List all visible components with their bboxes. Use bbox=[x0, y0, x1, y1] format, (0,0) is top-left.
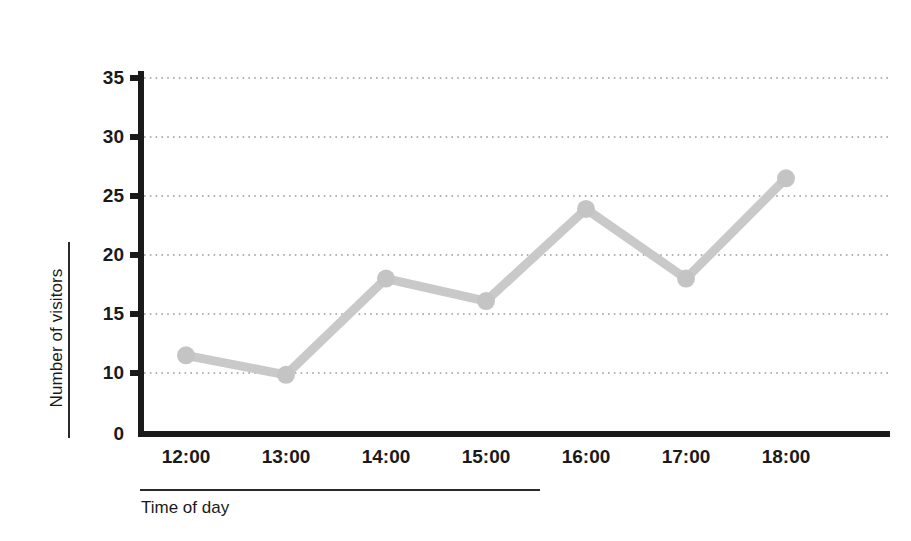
data-point-marker bbox=[377, 270, 395, 288]
y-axis-tick-label: 10 bbox=[78, 363, 124, 382]
data-point-marker bbox=[677, 270, 695, 288]
x-axis-title-rule bbox=[140, 489, 540, 491]
data-series-line bbox=[186, 178, 786, 375]
y-axis-title-text: Number of visitors bbox=[47, 238, 67, 438]
y-axis-tick-label: 15 bbox=[78, 304, 124, 323]
series-polyline bbox=[186, 178, 786, 375]
data-point-marker bbox=[577, 200, 595, 218]
data-point-marker bbox=[477, 292, 495, 310]
y-axis-tick-label: 20 bbox=[78, 245, 124, 264]
x-axis-tick-label: 15:00 bbox=[441, 447, 531, 466]
y-axis-tick-label: 30 bbox=[78, 127, 124, 146]
x-axis-tick-label: 17:00 bbox=[641, 447, 731, 466]
line-chart: 0101520253035 12:0013:0014:0015:0016:001… bbox=[0, 0, 911, 541]
x-axis-tick-label: 18:00 bbox=[741, 447, 831, 466]
x-axis-tick-label: 12:00 bbox=[141, 447, 231, 466]
y-axis-title-rule bbox=[68, 242, 70, 438]
y-axis-tick-label: 0 bbox=[78, 424, 124, 443]
y-axis-tick-label: 35 bbox=[78, 68, 124, 87]
x-axis-tick-label: 14:00 bbox=[341, 447, 431, 466]
y-axis-tick-label: 25 bbox=[78, 186, 124, 205]
data-point-marker bbox=[777, 169, 795, 187]
gridlines bbox=[144, 78, 890, 373]
x-axis-title-text: Time of day bbox=[141, 498, 229, 518]
x-axis-tick-label: 16:00 bbox=[541, 447, 631, 466]
data-point-marker bbox=[177, 346, 195, 364]
data-point-marker bbox=[277, 366, 295, 384]
y-axis-title: Number of visitors bbox=[44, 240, 70, 440]
axis-lines bbox=[138, 71, 890, 434]
x-axis-tick-label: 13:00 bbox=[241, 447, 331, 466]
data-point-markers bbox=[177, 169, 795, 384]
